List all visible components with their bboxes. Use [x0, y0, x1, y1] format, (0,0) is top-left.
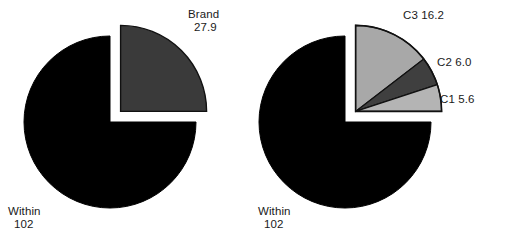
left-brand-label: Brand 27.9 — [188, 8, 219, 34]
left-within-label-line2: 102 — [8, 218, 41, 231]
right-within-label-line1: Within — [258, 205, 291, 218]
two-pie-chart-figure: Brand 27.9 Within 102 Within 102 C3 16.2… — [0, 0, 515, 251]
right-c1-label: C1 5.6 — [440, 93, 474, 106]
right-c3-label: C3 16.2 — [403, 9, 444, 22]
left-brand-label-line2: 27.9 — [188, 21, 219, 34]
left-within-label-line1: Within — [8, 205, 41, 218]
right-c2-label: C2 6.0 — [437, 56, 471, 69]
left-within-label: Within 102 — [8, 205, 41, 231]
right-within-label: Within 102 — [258, 205, 291, 231]
right-within-label-line2: 102 — [258, 218, 291, 231]
left-brand-slice — [121, 25, 207, 111]
right-pie-group — [259, 25, 442, 208]
left-pie-group — [24, 25, 207, 208]
left-brand-label-line1: Brand — [188, 8, 219, 21]
